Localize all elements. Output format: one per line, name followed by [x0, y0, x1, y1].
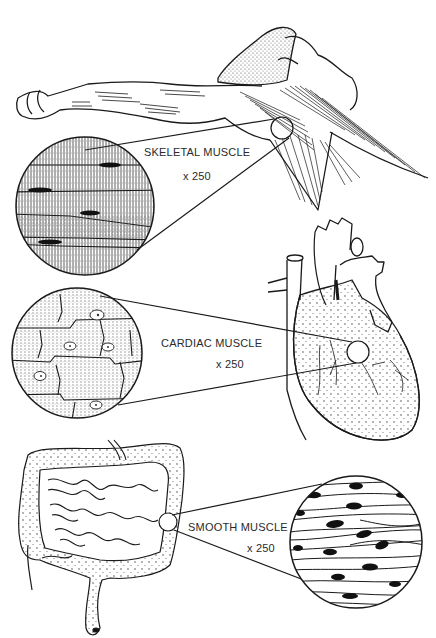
cardiac-muscle-micrograph [5, 285, 155, 425]
intestines-illustration [19, 440, 184, 635]
smooth-muscle-micrograph [285, 470, 430, 615]
diagram-artwork [0, 0, 436, 638]
smooth-muscle-label: SMOOTH MUSCLE [188, 521, 288, 533]
heart-illustration [268, 218, 419, 440]
muscle-types-diagram: SKELETAL MUSCLE x 250 CARDIAC MUSCLE x 2… [0, 0, 436, 638]
skeletal-muscle-label: SKELETAL MUSCLE [144, 146, 250, 158]
smooth-magnification-label: x 250 [247, 542, 275, 554]
cardiac-magnification-label: x 250 [216, 358, 244, 370]
skeletal-magnification-label: x 250 [183, 170, 211, 182]
cardiac-muscle-label: CARDIAC MUSCLE [161, 337, 262, 349]
